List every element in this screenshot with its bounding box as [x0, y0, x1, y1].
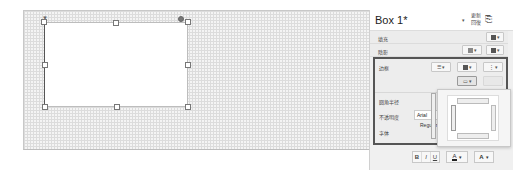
resize-handle-w[interactable] — [42, 62, 48, 68]
border-outer-left-toggle[interactable] — [431, 93, 436, 139]
font-label: 字体 — [379, 129, 389, 136]
border-sides-popup — [437, 89, 511, 147]
text-format-toolbar: B I U A ▾ A ▾ — [412, 151, 494, 163]
text-style-group: B I U — [412, 151, 440, 163]
more-button[interactable]: 更新 回復 — [470, 12, 482, 26]
font-color-icon: A — [479, 154, 483, 160]
shadow-color-button[interactable]: ▾ — [486, 45, 504, 55]
border-dash-button[interactable]: ⋮▾ — [483, 62, 503, 72]
shadow-style-button[interactable]: ▾ — [462, 45, 482, 55]
paste-style-icon[interactable]: ⎘ — [485, 14, 492, 25]
resize-handle-ne[interactable] — [185, 19, 191, 25]
underline-button[interactable]: U — [431, 152, 439, 162]
opacity-label: 不透明度 — [379, 113, 399, 120]
border-color-button[interactable]: ▾ — [457, 62, 477, 72]
color-swatch-icon — [491, 48, 496, 53]
resize-handle-e[interactable] — [185, 62, 191, 68]
dash-style-icon: ⋮ — [489, 63, 494, 71]
resize-handle-s[interactable] — [114, 104, 120, 110]
bold-button[interactable]: B — [413, 152, 422, 162]
border-sides-button[interactable]: ▭▾ — [457, 76, 477, 86]
fill-color-button[interactable]: ▾ — [486, 32, 504, 42]
italic-button[interactable]: I — [422, 152, 431, 162]
border-bottom-toggle[interactable] — [457, 133, 489, 139]
fill-row: 填充 ▾ — [370, 31, 508, 44]
shadow-icon — [468, 48, 473, 53]
border-weight-button[interactable]: ☰▾ — [431, 62, 451, 72]
border-sides-icon: ▭ — [463, 77, 468, 85]
chevron-down-icon[interactable]: ▾ — [462, 17, 465, 23]
resize-handle-nw[interactable] — [41, 19, 47, 25]
shadow-row: 陰影 ▾ ▾ — [370, 44, 508, 57]
rotate-handle[interactable] — [178, 16, 184, 22]
shadow-label: 陰影 — [378, 48, 388, 55]
border-sides-preview — [447, 95, 499, 141]
resize-handle-n[interactable] — [113, 20, 119, 26]
highlight-icon: A — [452, 153, 456, 161]
fill-label: 填充 — [378, 35, 388, 42]
border-disabled-button — [483, 76, 503, 86]
color-swatch-icon — [463, 65, 468, 70]
border-top-toggle[interactable] — [457, 98, 489, 104]
color-swatch-icon — [491, 35, 496, 40]
shape-name-label[interactable]: Box 1* — [375, 14, 407, 26]
resize-handle-sw[interactable] — [42, 104, 48, 110]
selected-box-shape[interactable] — [44, 22, 188, 107]
corner-radius-label: 圆角半径 — [379, 98, 399, 105]
border-left-toggle[interactable] — [451, 105, 456, 131]
line-weight-icon: ☰ — [437, 63, 441, 71]
resize-handle-se[interactable] — [185, 104, 191, 110]
border-right-toggle[interactable] — [491, 105, 496, 131]
text-highlight-button[interactable]: A ▾ — [446, 151, 468, 163]
panel-header: Box 1* ▾ 更新 回復 ⎘ — [370, 10, 513, 31]
font-color-button[interactable]: A ▾ — [474, 151, 494, 163]
border-label: 边框 — [379, 64, 389, 71]
